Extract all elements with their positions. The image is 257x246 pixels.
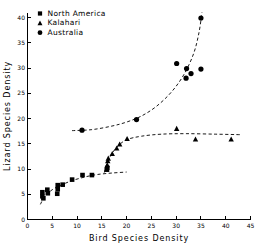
x-tick-label: 10 <box>73 222 81 229</box>
plot-area: 0510152025303540450510152025303540 Bird … <box>0 0 257 246</box>
legend-label-north-america: North America <box>48 9 106 18</box>
y-tick-label: 15 <box>17 140 25 147</box>
data-point-circle <box>188 71 193 76</box>
data-point-triangle <box>110 151 115 156</box>
data-point-circle <box>174 61 179 66</box>
fit-curve-australia <box>72 13 202 131</box>
data-point-square <box>70 177 75 182</box>
data-point-triangle <box>124 136 129 141</box>
data-point-triangle <box>228 136 233 141</box>
data-point-square <box>55 187 60 192</box>
x-tick-label: 30 <box>172 222 180 229</box>
y-tick-label: 30 <box>17 64 25 71</box>
legend-marker-circle <box>38 30 43 35</box>
series-kalahari <box>104 126 234 172</box>
data-point-square <box>60 182 65 187</box>
data-point-circle <box>183 76 188 81</box>
fit-curves <box>40 13 240 205</box>
data-point-square <box>90 173 95 178</box>
legend-label-australia: Australia <box>48 28 84 37</box>
data-point-triangle <box>117 141 122 146</box>
data-point-circle <box>184 66 189 71</box>
x-tick-label: 20 <box>123 222 131 229</box>
x-tick-label: 25 <box>148 222 156 229</box>
x-tick-label: 5 <box>50 222 54 229</box>
data-point-circle <box>79 128 84 133</box>
axis-titles: Bird Species DensityLizard Species Densi… <box>3 61 189 243</box>
legend: North AmericaKalahariAustralia <box>38 9 106 37</box>
data-point-circle <box>198 66 203 71</box>
y-tick-label: 10 <box>17 165 25 172</box>
data-point-square <box>40 190 45 195</box>
x-tick-label: 0 <box>26 222 30 229</box>
data-points <box>40 15 234 200</box>
data-point-square <box>41 196 46 201</box>
y-tick-label: 35 <box>17 39 25 46</box>
x-tick-label: 45 <box>247 222 255 229</box>
x-tick-label: 40 <box>222 222 230 229</box>
legend-marker-triangle <box>38 20 43 25</box>
y-tick-label: 40 <box>17 14 25 21</box>
scatter-chart: 0510152025303540450510152025303540 Bird … <box>0 0 257 246</box>
data-point-square <box>80 173 85 178</box>
data-point-circle <box>198 15 203 20</box>
data-point-triangle <box>174 126 179 131</box>
y-tick-label: 0 <box>21 216 25 223</box>
data-point-square <box>55 191 60 196</box>
series-north-america <box>40 166 110 201</box>
legend-label-kalahari: Kalahari <box>48 18 81 27</box>
x-axis-title: Bird Species Density <box>89 234 189 243</box>
series-australia <box>79 15 203 132</box>
data-point-triangle <box>193 136 198 141</box>
fit-curve-kalahari <box>104 134 240 173</box>
y-axis-title: Lizard Species Density <box>3 61 12 171</box>
y-tick-label: 5 <box>21 190 25 197</box>
x-tick-label: 15 <box>98 222 106 229</box>
x-tick-label: 35 <box>197 222 205 229</box>
y-tick-label: 25 <box>17 89 25 96</box>
data-point-square <box>46 191 51 196</box>
data-point-circle <box>134 117 139 122</box>
legend-marker-square <box>38 11 42 15</box>
y-tick-label: 20 <box>17 115 25 122</box>
data-point-square <box>55 183 60 188</box>
